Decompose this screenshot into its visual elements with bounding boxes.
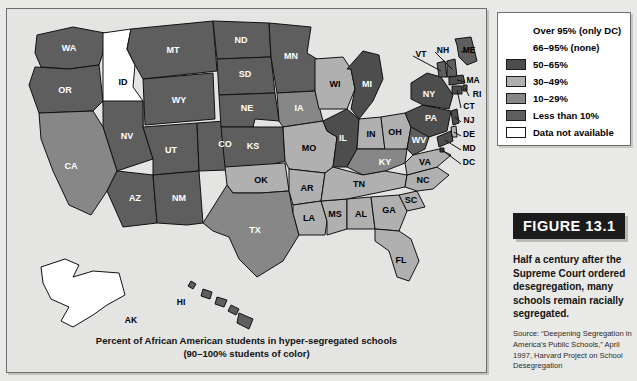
state-label-oh: OH bbox=[388, 127, 402, 137]
legend-item: 50–65% bbox=[506, 56, 630, 73]
state-label-ar: AR bbox=[301, 183, 314, 193]
legend-swatch bbox=[506, 110, 526, 121]
state-label-fl: FL bbox=[396, 255, 407, 265]
state-label-nd: ND bbox=[235, 35, 248, 45]
state-label-sd: SD bbox=[239, 69, 252, 79]
state-label-mo: MO bbox=[302, 143, 317, 153]
legend-item: 10–29% bbox=[506, 90, 630, 107]
map-panel: WAORIDMTWYNVUTCAAZCONMNDSDNEKSOKTXMNIAMO… bbox=[6, 8, 487, 373]
legend-item: Over 95% (only DC) bbox=[506, 22, 630, 39]
state-label-ms: MS bbox=[328, 209, 342, 219]
legend-item-label: 10–29% bbox=[533, 93, 568, 104]
state-hi bbox=[201, 289, 212, 299]
state-label-hi: HI bbox=[177, 297, 186, 307]
legend-swatch bbox=[506, 42, 526, 53]
state-label-id: ID bbox=[119, 77, 129, 87]
state-label-in: IN bbox=[367, 129, 376, 139]
state-label-or: OR bbox=[58, 85, 72, 95]
state-hi bbox=[188, 281, 196, 289]
legend-swatch bbox=[506, 127, 526, 138]
state-hi bbox=[228, 305, 239, 315]
legend-item: Data not available bbox=[506, 124, 630, 141]
legend-swatch bbox=[506, 59, 526, 70]
state-label-ca: CA bbox=[65, 161, 78, 171]
figure-number-tag: FIGURE 13.1 bbox=[513, 213, 625, 239]
legend-item-label: 66–95% (none) bbox=[533, 42, 600, 53]
legend-item: 66–95% (none) bbox=[506, 39, 630, 56]
state-label-ct: CT bbox=[463, 101, 475, 111]
figure-caption: Half a century after the Supreme Court o… bbox=[513, 253, 631, 321]
legend-item-label: Over 95% (only DC) bbox=[533, 25, 621, 36]
state-label-dc: DC bbox=[463, 157, 475, 167]
state-label-ut: UT bbox=[165, 145, 177, 155]
state-label-md: MD bbox=[462, 143, 475, 153]
state-label-sc: SC bbox=[405, 195, 418, 205]
legend-item-label: 30–49% bbox=[533, 76, 568, 87]
map-legend: Over 95% (only DC)66–95% (none)50–65%30–… bbox=[497, 12, 631, 146]
state-ak bbox=[41, 259, 125, 327]
state-label-tx: TX bbox=[249, 225, 261, 235]
state-label-de: DE bbox=[463, 129, 475, 139]
figure-source-note: Source: “Deepening Segregation in Americ… bbox=[513, 329, 637, 372]
legend-item: 30–49% bbox=[506, 73, 630, 90]
legend-item-label: Less than 10% bbox=[533, 110, 599, 121]
state-label-nm: NM bbox=[172, 193, 186, 203]
legend-item: Less than 10% bbox=[506, 107, 630, 124]
legend-swatch bbox=[506, 93, 526, 104]
state-label-az: AZ bbox=[129, 193, 141, 203]
state-hi bbox=[215, 297, 227, 307]
state-label-mi: MI bbox=[362, 79, 372, 89]
state-label-ks: KS bbox=[247, 141, 260, 151]
state-label-va: VA bbox=[419, 157, 431, 167]
legend-swatch bbox=[506, 25, 526, 36]
state-label-wv: WV bbox=[412, 135, 427, 145]
state-label-wa: WA bbox=[62, 43, 77, 53]
state-label-al: AL bbox=[355, 209, 367, 219]
map-caption-line1: Percent of African American students in … bbox=[96, 335, 397, 346]
state-ky bbox=[347, 149, 407, 175]
state-label-wi: WI bbox=[330, 79, 341, 89]
state-label-la: LA bbox=[303, 213, 315, 223]
legend-swatch bbox=[506, 76, 526, 87]
state-nh bbox=[447, 59, 457, 77]
state-label-il: IL bbox=[339, 133, 348, 143]
state-label-ok: OK bbox=[254, 175, 268, 185]
state-label-ne: NE bbox=[241, 103, 254, 113]
state-label-ma: MA bbox=[466, 75, 479, 85]
state-label-nv: NV bbox=[121, 131, 134, 141]
figure-page: WAORIDMTWYNVUTCAAZCONMNDSDNEKSOKTXMNIAMO… bbox=[0, 0, 637, 381]
map-caption: Percent of African American students in … bbox=[7, 334, 486, 360]
us-choropleth-map: WAORIDMTWYNVUTCAAZCONMNDSDNEKSOKTXMNIAMO… bbox=[7, 9, 486, 339]
state-vt bbox=[437, 61, 447, 77]
legend-item-label: Data not available bbox=[533, 127, 614, 138]
state-label-co: CO bbox=[218, 139, 232, 149]
state-label-ri: RI bbox=[473, 89, 482, 99]
state-hi bbox=[237, 313, 253, 329]
state-label-nj: NJ bbox=[464, 115, 475, 125]
state-label-ga: GA bbox=[382, 205, 396, 215]
legend-item-label: 50–65% bbox=[533, 59, 568, 70]
state-label-tn: TN bbox=[353, 179, 365, 189]
state-label-me: ME bbox=[463, 45, 476, 55]
state-label-nc: NC bbox=[417, 175, 430, 185]
state-label-mt: MT bbox=[167, 45, 180, 55]
state-label-nh: NH bbox=[437, 45, 449, 55]
state-label-ky: KY bbox=[379, 157, 392, 167]
map-caption-line2: (90–100% students of color) bbox=[7, 347, 486, 360]
state-label-pa: PA bbox=[425, 113, 437, 123]
state-label-wy: WY bbox=[172, 95, 187, 105]
state-label-ny: NY bbox=[423, 89, 436, 99]
state-label-ak: AK bbox=[125, 315, 138, 325]
state-label-mn: MN bbox=[284, 51, 298, 61]
state-label-ia: IA bbox=[295, 103, 305, 113]
